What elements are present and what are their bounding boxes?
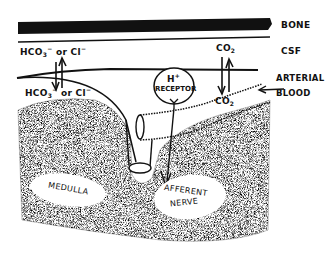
label-hco3-blood: HCO3− or Cl− <box>25 86 91 99</box>
label-arterial: ARTERIAL <box>276 73 324 83</box>
vessel-bottom-end <box>129 163 151 173</box>
diagram-canvas <box>0 0 332 256</box>
label-h-plus: H+ <box>167 72 180 84</box>
csf-upper-line <box>18 37 270 42</box>
label-co2-csf: CO2 <box>216 43 235 54</box>
co2-diffusion-arrows <box>218 57 233 94</box>
vessel-cut-end <box>136 115 144 139</box>
label-bone: BONE <box>281 20 310 30</box>
bone-layer <box>18 18 272 34</box>
label-blood: BLOOD <box>276 88 311 98</box>
label-csf: CSF <box>281 46 301 56</box>
label-hco3-csf: HCO3− or Cl− <box>20 45 86 58</box>
label-co2-blood: CO2 <box>215 96 234 107</box>
label-receptor: RECEPTOR <box>155 85 196 93</box>
